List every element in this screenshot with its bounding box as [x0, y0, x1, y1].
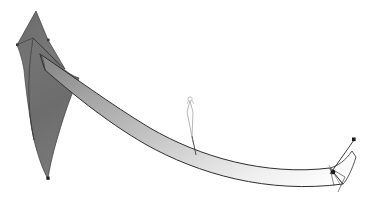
end-vertex-dot[interactable]	[46, 177, 49, 180]
fin-notch-dot-left	[16, 43, 19, 46]
fin-notch-dot-right	[47, 39, 50, 42]
end-vertex-marker[interactable]	[46, 177, 49, 180]
control-point-lower[interactable]	[331, 170, 335, 174]
normal-pin-tip-dot	[188, 97, 192, 101]
render-canvas: Ruled surface sweep rendering Swept rule…	[0, 0, 367, 206]
control-point-upper[interactable]	[352, 138, 356, 142]
scene-svg	[0, 0, 367, 206]
